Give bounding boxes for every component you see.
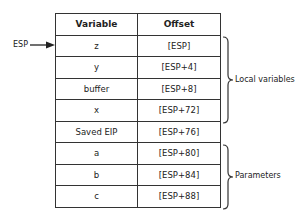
brace-local-icon xyxy=(222,36,234,124)
cell-offset: [ESP] xyxy=(138,35,221,57)
table-row: y[ESP+4] xyxy=(56,57,221,79)
cell-offset: [ESP+76] xyxy=(138,121,221,143)
cell-variable: y xyxy=(56,57,138,79)
esp-label: ESP xyxy=(13,40,28,49)
local-variables-label: Local variables xyxy=(235,75,295,84)
arrow-right-icon xyxy=(30,40,56,50)
cell-offset: [ESP+84] xyxy=(138,164,221,186)
table-row: x[ESP+72] xyxy=(56,100,221,122)
cell-offset: [ESP+4] xyxy=(138,57,221,79)
table-row: buffer[ESP+8] xyxy=(56,78,221,100)
cell-offset: [ESP+8] xyxy=(138,78,221,100)
cell-offset: [ESP+72] xyxy=(138,100,221,122)
table-row: b[ESP+84] xyxy=(56,164,221,186)
cell-variable: b xyxy=(56,164,138,186)
table-header: Variable Offset xyxy=(56,14,221,36)
cell-variable: c xyxy=(56,186,138,208)
cell-offset: [ESP+80] xyxy=(138,143,221,165)
cell-variable: x xyxy=(56,100,138,122)
cell-variable: buffer xyxy=(56,78,138,100)
cell-variable: a xyxy=(56,143,138,165)
brace-params-icon xyxy=(222,144,234,210)
stack-table: Variable Offset z[ESP] y[ESP+4] buffer[E… xyxy=(55,13,221,208)
header-offset: Offset xyxy=(138,14,221,36)
cell-offset: [ESP+88] xyxy=(138,186,221,208)
table-row: Saved EIP[ESP+76] xyxy=(56,121,221,143)
cell-variable: z xyxy=(56,35,138,57)
parameters-label: Parameters xyxy=(235,171,281,180)
table-row: a[ESP+80] xyxy=(56,143,221,165)
cell-variable: Saved EIP xyxy=(56,121,138,143)
table-row: c[ESP+88] xyxy=(56,186,221,208)
header-variable: Variable xyxy=(56,14,138,36)
table-row: z[ESP] xyxy=(56,35,221,57)
